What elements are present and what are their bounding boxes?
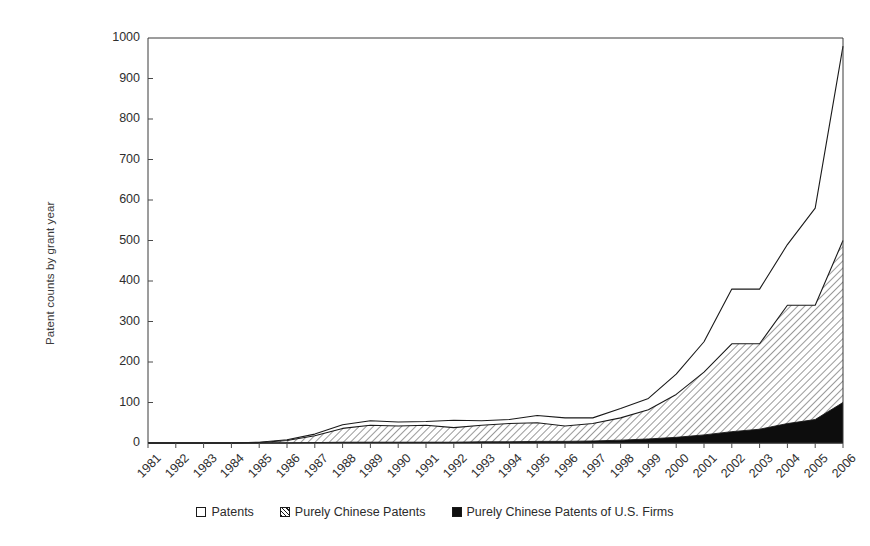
y-tick-label: 800	[96, 111, 140, 125]
legend-swatch-white-square	[196, 507, 206, 517]
y-tick-label: 400	[96, 273, 140, 287]
y-tick-label: 200	[96, 354, 140, 368]
patent-counts-area-chart: Patent counts by grant year 010020030040…	[0, 0, 870, 546]
legend-label: Patents	[211, 505, 253, 519]
legend-item: Purely Chinese Patents of U.S. Firms	[452, 505, 674, 519]
legend-label: Purely Chinese Patents of U.S. Firms	[467, 505, 674, 519]
chart-legend: PatentsPurely Chinese PatentsPurely Chin…	[0, 505, 870, 519]
y-tick-label: 300	[96, 314, 140, 328]
y-tick-label: 900	[96, 71, 140, 85]
legend-item: Purely Chinese Patents	[280, 505, 426, 519]
y-axis-title: Patent counts by grant year	[44, 202, 56, 345]
y-tick-label: 700	[96, 152, 140, 166]
legend-item: Patents	[196, 505, 253, 519]
y-tick-label: 500	[96, 233, 140, 247]
y-tick-label: 600	[96, 192, 140, 206]
y-tick-label: 100	[96, 395, 140, 409]
y-tick-label: 1000	[96, 30, 140, 44]
y-tick-label: 0	[96, 435, 140, 449]
legend-swatch-hatched-square	[280, 507, 290, 517]
legend-swatch-black-square	[452, 507, 462, 517]
legend-label: Purely Chinese Patents	[295, 505, 426, 519]
